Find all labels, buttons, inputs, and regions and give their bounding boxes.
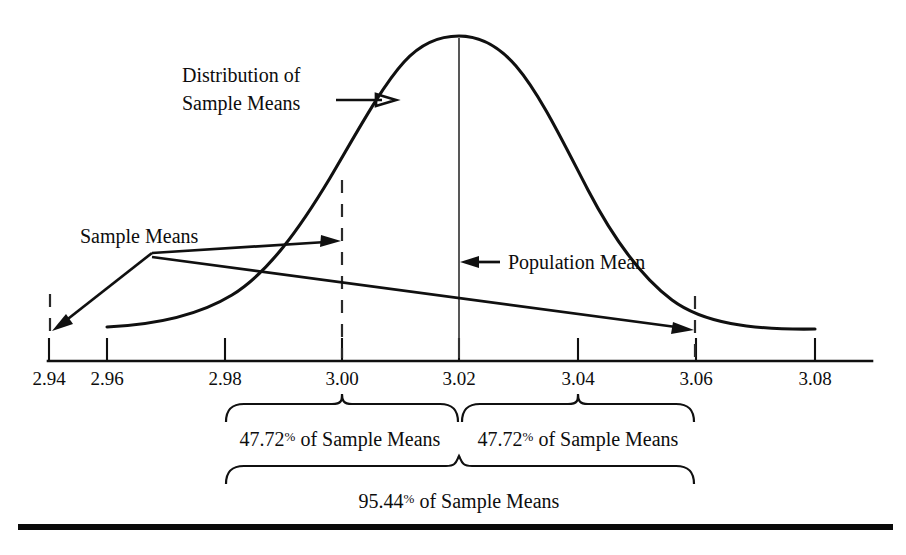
axis-tick-labels: 2.94 2.96 2.98 3.00 3.02 3.04 3.06 3.08 <box>32 368 831 389</box>
tick-label-3-02: 3.02 <box>442 368 475 389</box>
tick-label-3-00: 3.00 <box>325 368 358 389</box>
brace-left-label: 47.72% of Sample Means <box>240 428 441 451</box>
tick-label-2-94: 2.94 <box>32 368 66 389</box>
arrowhead-population-mean <box>460 256 479 268</box>
bottom-rule <box>18 524 893 530</box>
brace-right-percent: % <box>523 429 534 444</box>
brace-right-suffix: of Sample Means <box>533 428 678 451</box>
brace-left <box>226 394 458 422</box>
arrowhead-3-06 <box>671 322 694 334</box>
brace-left-percent: % <box>285 429 296 444</box>
brace-left-suffix: of Sample Means <box>295 428 440 451</box>
sample-means-label: Sample Means <box>80 225 199 248</box>
brace-total-label: 95.44% of Sample Means <box>359 490 560 513</box>
brace-total-percent: % <box>404 491 415 506</box>
distribution-label-line2: Sample Means <box>182 92 301 115</box>
brace-total-suffix: of Sample Means <box>414 490 559 513</box>
tick-label-2-98: 2.98 <box>208 368 241 389</box>
brace-right-label: 47.72% of Sample Means <box>478 428 679 451</box>
axis-ticks <box>49 338 815 361</box>
population-mean-leader <box>460 256 500 268</box>
population-mean-label: Population Mean <box>508 251 645 274</box>
distribution-label-line1: Distribution of <box>182 64 301 86</box>
sample-means-leaders <box>52 235 694 334</box>
tick-label-3-06: 3.06 <box>679 368 712 389</box>
arrowhead-3-00 <box>320 235 341 247</box>
tick-label-3-08: 3.08 <box>798 368 831 389</box>
leader-to-2-94 <box>64 253 152 322</box>
brace-right <box>462 394 694 422</box>
tick-label-3-04: 3.04 <box>561 368 595 389</box>
distribution-figure: 2.94 2.96 2.98 3.00 3.02 3.04 3.06 3.08 … <box>0 0 906 555</box>
distribution-leader <box>336 94 396 106</box>
brace-total-value: 95.44 <box>359 490 404 512</box>
distribution-svg: 2.94 2.96 2.98 3.00 3.02 3.04 3.06 3.08 … <box>0 0 906 555</box>
brace-total <box>226 456 694 484</box>
brace-left-value: 47.72 <box>240 428 285 450</box>
brace-right-value: 47.72 <box>478 428 523 450</box>
tick-label-2-96: 2.96 <box>90 368 123 389</box>
